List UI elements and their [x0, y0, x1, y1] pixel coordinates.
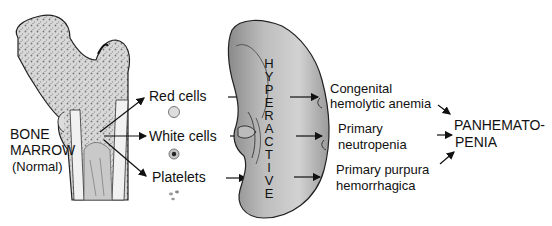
condition-line1: Primary purpura [336, 162, 429, 177]
condition-to-result-arrows [437, 105, 454, 164]
condition-line2: hemolytic anemia [330, 96, 431, 111]
bone-marrow-label-line3: (Normal) [12, 159, 63, 174]
condition-line1: Primary [338, 121, 383, 136]
platelets-icon [169, 191, 179, 201]
condition-line1: Congenital [330, 81, 392, 96]
bone-marrow-label-line1: BONE [10, 126, 50, 142]
platelets-label: Platelets [152, 169, 206, 185]
bone-marrow-label-line2: MARROW [10, 142, 75, 158]
red-cell-icon [169, 107, 180, 118]
diagram-artwork [0, 0, 552, 226]
spleen-illustration [228, 20, 329, 218]
result-line2: PENIA [455, 134, 497, 150]
condition-line2: neutropenia [338, 137, 407, 152]
white-cells-label: White cells [149, 128, 217, 144]
white-cell-icon [169, 149, 179, 159]
red-cells-label: Red cells [149, 88, 207, 104]
condition-line2: hemorrhagica [336, 178, 416, 193]
result-line1: PANHEMATO- [454, 117, 545, 133]
hyperactive-letter: E [263, 187, 275, 200]
